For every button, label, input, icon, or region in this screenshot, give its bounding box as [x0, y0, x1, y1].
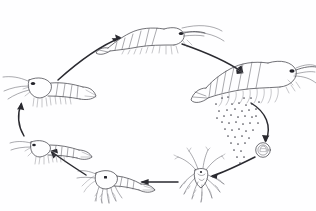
arrow-mysis-to-postlarva — [50, 149, 86, 175]
released-egg-cloud — [215, 96, 260, 164]
adult-female-shrimp-spawning — [191, 61, 316, 106]
arrow-subadult-to-adult — [182, 44, 244, 74]
arrow-juvenile-to-subadult — [58, 34, 122, 80]
life-cycle-diagram: Shrimp (penaeid prawn) life cycle — [0, 0, 316, 211]
diagram-canvas — [0, 0, 316, 211]
arrow-egg-to-nauplius — [210, 157, 255, 179]
arrow-postlarva-to-juvenile — [17, 102, 24, 136]
fertilized-egg — [256, 143, 271, 158]
arrow-adult-to-egg — [251, 103, 269, 143]
juvenile-shrimp — [3, 77, 96, 107]
mysis-larva — [77, 171, 155, 203]
